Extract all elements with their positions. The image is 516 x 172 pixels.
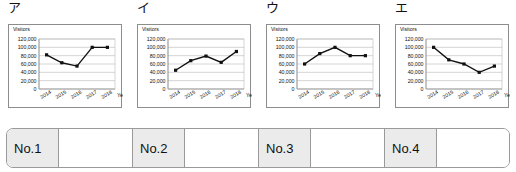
answer-label-3: No.3 bbox=[259, 129, 311, 167]
y-tick-label: 120,000 bbox=[276, 36, 295, 42]
x-tick-label: 2014 bbox=[168, 89, 181, 100]
data-point-marker bbox=[364, 54, 367, 57]
line-chart-svg: 020,00040,00060,00080,000100,000120,0002… bbox=[138, 25, 252, 109]
y-tick-label: 0 bbox=[421, 86, 424, 92]
x-tick-label: 2018 bbox=[358, 89, 371, 100]
y-tick-label: 60,000 bbox=[279, 61, 295, 67]
chart-option-3[interactable]: ウVisitors020,00040,00060,00080,000100,00… bbox=[258, 0, 387, 112]
chart-option-2[interactable]: イVisitors020,00040,00060,00080,000100,00… bbox=[129, 0, 258, 112]
x-axis-title: Year bbox=[375, 92, 381, 98]
answer-label-4: No.4 bbox=[385, 129, 437, 167]
y-tick-label: 60,000 bbox=[408, 61, 424, 67]
option-letter: イ bbox=[137, 1, 150, 15]
answer-bar: No.1No.2No.3No.4 bbox=[6, 128, 510, 168]
data-point-marker bbox=[75, 64, 78, 67]
answer-field-3[interactable] bbox=[311, 129, 385, 167]
answer-group-1: No.1 bbox=[7, 129, 133, 167]
y-tick-label: 80,000 bbox=[21, 53, 37, 59]
data-line bbox=[176, 52, 237, 71]
x-tick-label: 2016 bbox=[457, 89, 470, 100]
y-tick-label: 20,000 bbox=[150, 78, 166, 84]
data-point-marker bbox=[106, 46, 109, 49]
plot-area: 020,00040,00060,00080,000100,000120,0002… bbox=[138, 25, 250, 107]
plot-area: 020,00040,00060,00080,000100,000120,0002… bbox=[267, 25, 379, 107]
answer-field-1[interactable] bbox=[59, 129, 133, 167]
line-chart-svg: 020,00040,00060,00080,000100,000120,0002… bbox=[9, 25, 123, 109]
data-line bbox=[434, 47, 495, 72]
x-tick-label: 2015 bbox=[312, 89, 325, 100]
y-tick-label: 100,000 bbox=[276, 44, 295, 50]
plot-area: 020,00040,00060,00080,000100,000120,0002… bbox=[9, 25, 121, 107]
x-tick-label: 2016 bbox=[70, 89, 83, 100]
x-tick-label: 2018 bbox=[487, 89, 500, 100]
answer-field-2[interactable] bbox=[185, 129, 259, 167]
option-letter: ウ bbox=[266, 1, 279, 15]
line-chart-svg: 020,00040,00060,00080,000100,000120,0002… bbox=[267, 25, 381, 109]
x-tick-label: 2017 bbox=[85, 89, 98, 100]
data-point-marker bbox=[303, 62, 306, 65]
x-tick-label: 2018 bbox=[229, 89, 242, 100]
y-tick-label: 40,000 bbox=[279, 69, 295, 75]
y-tick-label: 60,000 bbox=[21, 61, 37, 67]
chart-option-4[interactable]: エVisitors020,00040,00060,00080,000100,00… bbox=[387, 0, 516, 112]
y-tick-label: 100,000 bbox=[405, 44, 424, 50]
data-point-marker bbox=[333, 46, 336, 49]
answer-group-4: No.4 bbox=[385, 129, 510, 167]
x-tick-label: 2018 bbox=[100, 89, 113, 100]
x-tick-label: 2016 bbox=[328, 89, 341, 100]
y-tick-label: 20,000 bbox=[408, 78, 424, 84]
x-tick-label: 2017 bbox=[214, 89, 227, 100]
option-letter: ア bbox=[8, 1, 21, 15]
data-point-marker bbox=[189, 59, 192, 62]
data-point-marker bbox=[220, 61, 223, 64]
chart-frame: Visitors020,00040,00060,00080,000100,000… bbox=[395, 24, 509, 108]
plot-area: 020,00040,00060,00080,000100,000120,0002… bbox=[396, 25, 508, 107]
chart-options-row: アVisitors020,00040,00060,00080,000100,00… bbox=[0, 0, 516, 112]
x-axis-title: Year bbox=[117, 92, 123, 98]
x-tick-label: 2015 bbox=[54, 89, 67, 100]
y-tick-label: 100,000 bbox=[147, 44, 166, 50]
y-tick-label: 40,000 bbox=[150, 69, 166, 75]
x-tick-label: 2015 bbox=[441, 89, 454, 100]
data-point-marker bbox=[174, 69, 177, 72]
data-point-marker bbox=[91, 46, 94, 49]
x-tick-label: 2017 bbox=[472, 89, 485, 100]
y-tick-label: 40,000 bbox=[21, 69, 37, 75]
chart-frame: Visitors020,00040,00060,00080,000100,000… bbox=[266, 24, 380, 108]
x-tick-label: 2015 bbox=[183, 89, 196, 100]
data-point-marker bbox=[60, 61, 63, 64]
data-point-marker bbox=[204, 54, 207, 57]
answer-group-3: No.3 bbox=[259, 129, 385, 167]
data-point-marker bbox=[432, 46, 435, 49]
x-tick-label: 2014 bbox=[426, 89, 439, 100]
data-point-marker bbox=[45, 53, 48, 56]
y-tick-label: 80,000 bbox=[279, 53, 295, 59]
data-point-marker bbox=[235, 50, 238, 53]
x-tick-label: 2017 bbox=[343, 89, 356, 100]
y-tick-label: 0 bbox=[292, 86, 295, 92]
y-tick-label: 60,000 bbox=[150, 61, 166, 67]
data-point-marker bbox=[493, 64, 496, 67]
y-tick-label: 20,000 bbox=[21, 78, 37, 84]
data-line bbox=[47, 47, 108, 66]
y-tick-label: 120,000 bbox=[18, 36, 37, 42]
data-point-marker bbox=[462, 62, 465, 65]
y-tick-label: 0 bbox=[34, 86, 37, 92]
answer-group-2: No.2 bbox=[133, 129, 259, 167]
y-tick-label: 100,000 bbox=[18, 44, 37, 50]
x-axis-title: Year bbox=[246, 92, 252, 98]
option-letter: エ bbox=[395, 1, 408, 15]
answer-field-4[interactable] bbox=[437, 129, 510, 167]
answer-label-2: No.2 bbox=[133, 129, 185, 167]
y-tick-label: 120,000 bbox=[405, 36, 424, 42]
x-tick-label: 2014 bbox=[39, 89, 52, 100]
chart-option-1[interactable]: アVisitors020,00040,00060,00080,000100,00… bbox=[0, 0, 129, 112]
x-tick-label: 2014 bbox=[297, 89, 310, 100]
y-tick-label: 0 bbox=[163, 86, 166, 92]
answer-label-1: No.1 bbox=[7, 129, 59, 167]
chart-frame: Visitors020,00040,00060,00080,000100,000… bbox=[137, 24, 251, 108]
data-point-marker bbox=[349, 54, 352, 57]
y-tick-label: 120,000 bbox=[147, 36, 166, 42]
y-tick-label: 80,000 bbox=[408, 53, 424, 59]
data-point-marker bbox=[447, 58, 450, 61]
